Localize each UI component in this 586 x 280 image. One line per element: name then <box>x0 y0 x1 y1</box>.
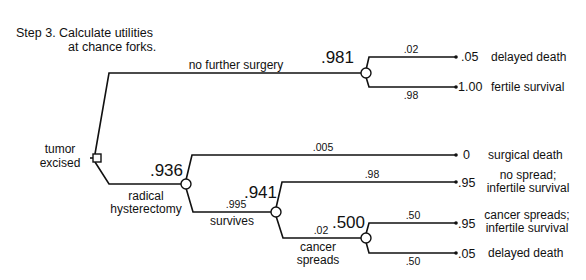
chance-node-hysterectomy <box>181 179 191 189</box>
chance-utility-cancer-spreads: .500 <box>332 213 365 232</box>
branch-label-no-further-surgery: no further surgery <box>189 58 284 72</box>
decision-label-line-2: excised <box>40 156 81 170</box>
value-ns-fertile-survival: 1.00 <box>458 80 482 94</box>
chance-utility-hysterectomy: .936 <box>150 161 183 180</box>
chance-utility-no-surgery: .981 <box>321 48 354 67</box>
chance-node-cancer-spreads <box>361 233 371 243</box>
branch-ns-delayed-death <box>366 57 456 70</box>
branch-label-survives: survives <box>210 214 254 228</box>
outcome-no-spread-line-1: no spread; <box>500 168 557 182</box>
chance-utility-survives: .941 <box>244 183 277 202</box>
branch-cs-delayed-death <box>366 242 456 253</box>
title-line-2: at chance forks. <box>68 40 156 54</box>
terminal-dot <box>454 153 458 157</box>
branch-label-hysterectomy: hysterectomy <box>110 202 181 216</box>
branch-no-spread <box>276 182 456 208</box>
branch-label-spreads: spreads <box>297 253 340 267</box>
value-cs-delayed-death: .05 <box>458 247 475 261</box>
decision-node-square <box>93 154 101 162</box>
chance-node-no-surgery <box>361 68 371 78</box>
outcome-cs-infertile-line-1: cancer spreads; <box>484 208 569 222</box>
outcome-cs-delayed-death: delayed death <box>488 246 563 260</box>
branch-label-cancer: cancer <box>300 240 336 254</box>
prob-cs-infertile-survival: .50 <box>406 209 421 221</box>
decision-tree-diagram: Step 3. Calculate utilities at chance fo… <box>0 0 586 280</box>
prob-cancer-spreads: .02 <box>314 224 329 236</box>
outcome-cs-infertile-line-2: infertile survival <box>486 221 569 235</box>
chance-node-survives <box>271 207 281 217</box>
prob-ns-delayed-death: .02 <box>404 43 419 55</box>
prob-surgical-death: .005 <box>313 141 334 153</box>
title-line-1: Step 3. Calculate utilities <box>16 26 153 40</box>
prob-no-spread: .98 <box>365 168 380 180</box>
value-ns-delayed-death: .05 <box>461 50 478 64</box>
outcome-no-spread-line-2: infertile survival <box>487 181 570 195</box>
prob-ns-fertile-survival: .98 <box>404 89 419 101</box>
terminal-dot <box>454 55 458 59</box>
branch-ns-fertile-survival <box>366 77 456 87</box>
prob-cs-delayed-death: .50 <box>406 255 421 267</box>
outcome-ns-fertile-survival: fertile survival <box>491 80 564 94</box>
branch-surgical-death <box>186 155 456 180</box>
value-no-spread: .95 <box>458 176 475 190</box>
value-surgical-death: 0 <box>463 148 470 162</box>
outcome-surgical-death: surgical death <box>488 148 563 162</box>
value-cs-infertile-survival: .95 <box>458 217 475 231</box>
decision-label-line-1: tumor <box>45 142 76 156</box>
branch-cs-infertile-survival <box>366 223 456 234</box>
branch-label-radical: radical <box>128 189 163 203</box>
outcome-ns-delayed-death: delayed death <box>491 50 566 64</box>
